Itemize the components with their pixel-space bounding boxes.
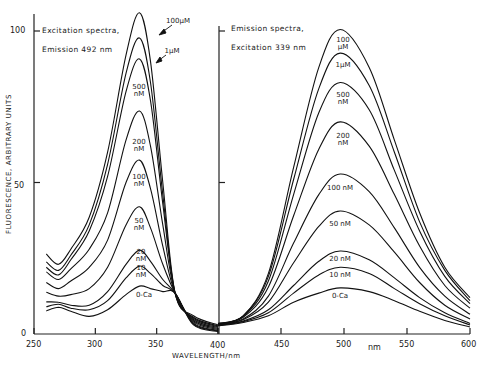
emission-title-line1: Emission spectra, — [231, 25, 304, 33]
arrowhead-100uM — [159, 29, 166, 35]
emission-curve-label: 500nM — [329, 92, 357, 106]
label-arrows — [156, 25, 172, 63]
emission-curve-label: 10 nM — [326, 272, 354, 279]
x-axis-label: WAVELENGTH/nm — [172, 352, 240, 360]
x-unit-label: nm — [368, 343, 381, 352]
y-tick-50: 50 — [14, 181, 24, 190]
x-tick-400: 400 — [210, 341, 225, 350]
y-tick-100: 100 — [10, 26, 25, 35]
excitation-curve-label: 0-Ca — [130, 292, 158, 299]
spectra-curves — [46, 13, 470, 332]
emission-curve-label: 100µM — [329, 37, 357, 51]
arrowhead-1uM — [156, 57, 162, 63]
x-tick-350: 350 — [148, 340, 163, 349]
excitation-curve-label: 100nM — [125, 174, 153, 188]
excitation-curve-500nM — [46, 59, 218, 327]
x-tick-600: 600 — [461, 340, 476, 349]
emission-curve-label: 100 nM — [326, 185, 354, 192]
emission-curve-100uM — [218, 30, 470, 324]
excitation-title-line2: Emission 492 nm — [42, 46, 113, 54]
excitation-curve-label: 50nM — [125, 218, 153, 232]
emission-curve-label: 1µM — [329, 62, 357, 69]
excitation-curve-label: 20nM — [127, 249, 155, 263]
y-axis-label: FLUORESCENCE, ARBITRARY UNITS — [5, 79, 13, 249]
x-tick-550: 550 — [399, 340, 414, 349]
excitation-curve-label: 500nM — [125, 84, 153, 98]
emission-curve-label: 20 nM — [326, 256, 354, 263]
emission-curve-label: 200nM — [329, 133, 357, 147]
y-tick-0: 0 — [21, 329, 26, 338]
excitation-curve-label: 10nM — [127, 265, 155, 279]
excitation-curve-label: 1µM — [158, 48, 186, 55]
excitation-title-line1: Excitation spectra, — [42, 27, 120, 35]
fluorescence-chart — [0, 0, 486, 370]
excitation-curve-label: 200nM — [125, 139, 153, 153]
emission-curve-label: 0-Ca — [326, 293, 354, 300]
emission-curve-label: 50 nM — [326, 221, 354, 228]
x-tick-500: 500 — [336, 340, 351, 349]
x-tick-250: 250 — [26, 340, 41, 349]
x-tick-450: 450 — [274, 340, 289, 349]
excitation-curve-label: 100µM — [164, 18, 192, 25]
x-tick-300: 300 — [87, 340, 102, 349]
emission-title-line2: Excitation 339 nm — [231, 44, 306, 52]
